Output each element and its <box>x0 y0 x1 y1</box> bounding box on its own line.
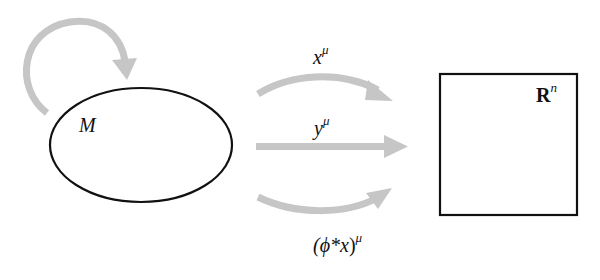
map-label-y-sup: μ <box>323 113 330 128</box>
map-arrow-y <box>256 143 386 150</box>
map-label-x-base: x <box>313 46 322 68</box>
manifold-label: M <box>79 114 96 137</box>
diagram-svg <box>0 0 600 280</box>
map-label-x-sup: μ <box>322 42 329 57</box>
target-space-label-base: R <box>536 84 550 106</box>
map-label-pullback-suffix: ) <box>349 234 356 256</box>
self-map-arrow <box>26 21 125 113</box>
map-arrow-x <box>258 77 378 94</box>
map-label-y: yμ <box>314 115 329 140</box>
target-space-label-sup: n <box>550 80 557 95</box>
manifold-label-text: M <box>79 114 96 136</box>
map-label-y-base: y <box>314 117 323 139</box>
map-label-pullback-sup: μ <box>356 230 363 245</box>
manifold-ellipse <box>50 88 232 202</box>
map-arrow-pullback <box>258 197 377 211</box>
map-label-pullback-prefix: (ϕ* <box>313 234 340 256</box>
target-space-label: Rn <box>536 82 557 107</box>
map-arrow-y-head-icon <box>384 135 408 158</box>
map-label-pullback: (ϕ*x)μ <box>313 232 362 257</box>
map-arrow-x-head-icon <box>365 80 393 101</box>
map-label-x: xμ <box>313 44 328 69</box>
map-label-pullback-base: x <box>340 234 349 256</box>
diagram-canvas: M Rn xμ yμ (ϕ*x)μ <box>0 0 600 280</box>
self-map-arrowhead-icon <box>112 58 137 80</box>
